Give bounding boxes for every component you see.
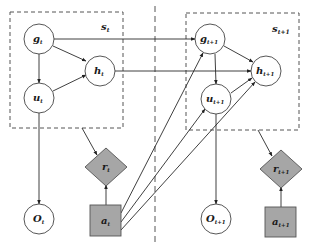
edge-a_t-u_t1 — [121, 109, 205, 222]
edge-u_t1-h_t1 — [231, 78, 252, 93]
edge-a_t-h_t1 — [121, 82, 255, 230]
edge-s_t1-r_t1 — [258, 130, 272, 156]
group-label-s_t1: st+1 — [272, 23, 290, 35]
group-label-s_t: st — [101, 21, 110, 33]
edge-g_t1-h_t1 — [224, 46, 253, 62]
edge-s_t-r_t — [82, 128, 97, 155]
bayesian-network-diagram: st st+1 gt ht ut Ot rt at gt+1 ht+1 ut+1… — [0, 0, 311, 252]
edge-a_t-g_t1 — [121, 53, 203, 213]
edge-u_t-h_t — [53, 75, 86, 91]
edge-g_t1-u_t1 — [215, 54, 216, 84]
edge-g_t-h_t — [53, 46, 86, 61]
